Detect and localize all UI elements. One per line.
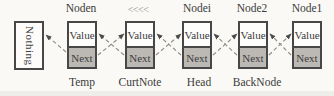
node-top-label-nodei: Nodei xyxy=(183,2,211,14)
arrow-temp-next-to-nothing xyxy=(46,35,66,52)
next-cell: Next xyxy=(127,46,153,67)
node-box-temp: Value Next xyxy=(67,21,97,69)
node-top-label-node2: Node2 xyxy=(237,2,268,14)
next-cell: Next xyxy=(184,46,210,67)
next-cell: Next xyxy=(294,46,320,67)
value-cell: Value xyxy=(127,23,153,46)
arrow-curtnote-next-to-head xyxy=(156,34,181,55)
pointer-label-curtnote: CurtNote xyxy=(119,76,162,88)
next-cell: Next xyxy=(69,46,95,67)
node-top-label-noden: Noden xyxy=(66,2,97,14)
next-cell: Next xyxy=(240,46,266,67)
pointer-arrows-layer xyxy=(0,0,334,96)
arrow-head-next-to-backnode xyxy=(213,34,237,55)
pointer-label-backnode: BackNode xyxy=(233,76,282,88)
value-cell: Value xyxy=(294,23,320,46)
pointer-label-head: Head xyxy=(187,76,211,88)
value-cell: Value xyxy=(69,23,95,46)
node-box-curtnote: Value Next xyxy=(125,21,155,69)
linked-list-reversal-diagram: Noden <<<< Nodei Node2 Node1 Nothing Val… xyxy=(0,0,334,96)
nothing-box: Nothing xyxy=(14,21,44,70)
arrow-backnode-next-to-node1 xyxy=(269,34,291,55)
current-position-marker: <<<< xyxy=(128,4,149,15)
value-cell: Value xyxy=(240,23,266,46)
value-cell: Value xyxy=(184,23,210,46)
pointer-label-temp: Temp xyxy=(69,76,95,88)
nothing-label: Nothing xyxy=(24,26,35,66)
node-top-label-node1: Node1 xyxy=(292,2,323,14)
node-box-node1: Value Next xyxy=(292,21,322,69)
node-box-backnode: Value Next xyxy=(238,21,268,69)
node-box-head: Value Next xyxy=(182,21,212,69)
